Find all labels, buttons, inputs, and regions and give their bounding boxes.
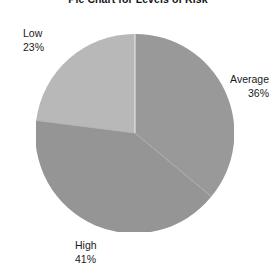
pie-chart-figure: Pie Chart for Levels of Risk Low 23% Ave…: [0, 0, 276, 276]
slice-label-average-percent: 36%: [230, 87, 269, 101]
slice-label-low: Low 23%: [23, 27, 44, 54]
slice-label-low-percent: 23%: [23, 41, 44, 55]
pie-slice-low[interactable]: [36, 34, 135, 133]
slice-label-high: High 41%: [75, 239, 97, 266]
pie-svg: [36, 34, 234, 232]
slice-label-high-name: High: [75, 239, 97, 253]
pie-graphic: [36, 34, 234, 232]
slice-label-high-percent: 41%: [75, 253, 97, 267]
slice-label-average: Average 36%: [230, 73, 269, 100]
slice-label-average-name: Average: [230, 73, 269, 87]
slice-label-low-name: Low: [23, 27, 44, 41]
chart-title: Pie Chart for Levels of Risk: [0, 0, 276, 5]
